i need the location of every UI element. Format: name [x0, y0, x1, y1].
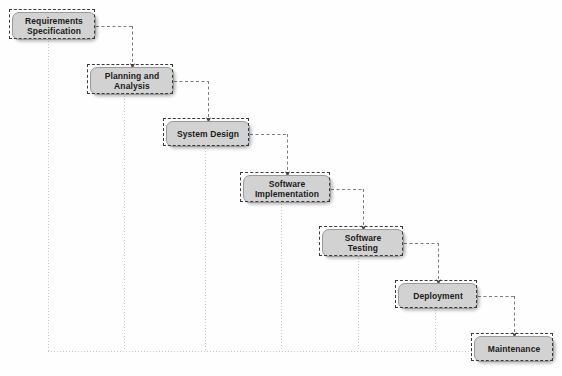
node-label-software-implementation: Software Implementation: [251, 179, 323, 200]
node-label-maintenance: Maintenance: [484, 344, 545, 355]
node-maintenance[interactable]: Maintenance: [474, 336, 554, 362]
node-software-implementation[interactable]: Software Implementation: [243, 175, 331, 203]
node-label-requirements-specification: Requirements Specification: [21, 16, 87, 37]
node-label-deployment: Deployment: [409, 291, 467, 302]
node-deployment[interactable]: Deployment: [398, 283, 478, 309]
node-label-system-design: System Design: [173, 129, 243, 140]
node-system-design[interactable]: System Design: [166, 121, 250, 147]
diagram-canvas[interactable]: Requirements SpecificationPlanning and A…: [0, 0, 562, 376]
node-label-software-testing: Software Testing: [341, 233, 386, 254]
node-planning-and-analysis[interactable]: Planning and Analysis: [90, 67, 174, 95]
node-software-testing[interactable]: Software Testing: [322, 229, 404, 257]
node-requirements-specification[interactable]: Requirements Specification: [12, 12, 96, 40]
node-label-planning-and-analysis: Planning and Analysis: [101, 71, 164, 92]
